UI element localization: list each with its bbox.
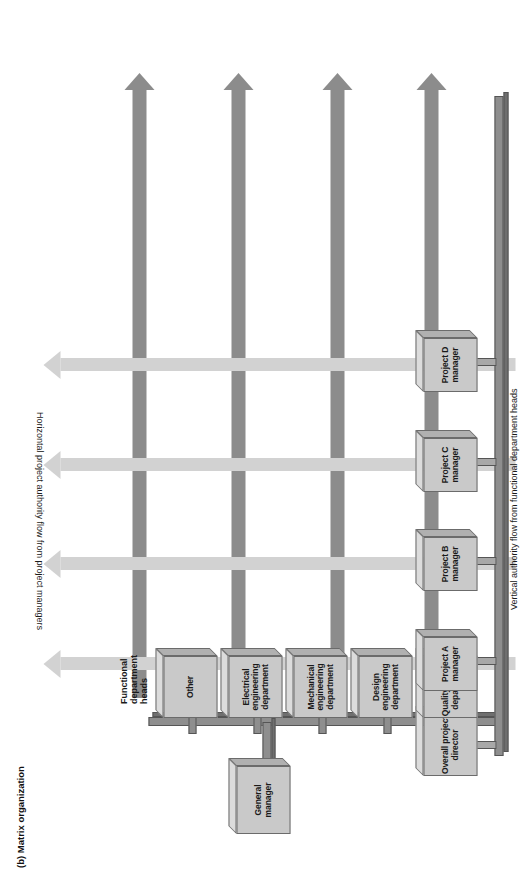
node-label: Design engineering department bbox=[371, 657, 400, 717]
box-front-face: General manager bbox=[236, 766, 290, 834]
node-label: General manager bbox=[253, 767, 272, 833]
node-project-d-manager[interactable]: Project D manager bbox=[415, 330, 477, 392]
box-side-face bbox=[350, 648, 412, 656]
matrix-organization-diagram: (b) Matrix organization bbox=[0, 0, 527, 876]
node-other-department[interactable]: Other bbox=[155, 648, 217, 718]
box-front-face: Project C manager bbox=[423, 438, 477, 492]
node-general-manager[interactable]: General manager bbox=[228, 758, 290, 834]
node-label: Other bbox=[185, 676, 195, 698]
box-front-face: Design engineering department bbox=[358, 656, 412, 718]
general-manager-connector-shadow bbox=[271, 718, 275, 760]
box-side-face bbox=[415, 529, 477, 537]
box-side-face bbox=[220, 648, 282, 656]
box-top-face bbox=[350, 648, 358, 718]
box-top-face bbox=[155, 648, 163, 718]
node-design-engineering-department[interactable]: Design engineering department bbox=[350, 648, 412, 718]
box-front-face: Project B manager bbox=[423, 537, 477, 591]
box-front-face: Project A manager bbox=[423, 637, 477, 691]
node-label: Overall project director bbox=[440, 715, 459, 775]
box-top-face bbox=[285, 648, 293, 718]
node-label: Project B manager bbox=[440, 538, 459, 590]
box-front-face: Other bbox=[163, 656, 217, 718]
node-label: Project D manager bbox=[440, 339, 459, 391]
horizontal-flow-arrow-3 bbox=[330, 90, 344, 698]
box-front-face: Overall project director bbox=[423, 714, 477, 776]
node-project-a-manager[interactable]: Project A manager bbox=[415, 629, 477, 691]
box-top-face bbox=[415, 330, 423, 392]
figure-title: (b) Matrix organization bbox=[14, 766, 25, 868]
functional-stub-1 bbox=[188, 716, 196, 734]
box-side-face bbox=[155, 648, 217, 656]
figure-canvas: (b) Matrix organization bbox=[0, 0, 527, 876]
box-top-face bbox=[220, 648, 228, 718]
box-side-face bbox=[415, 629, 477, 637]
box-side-face bbox=[285, 648, 347, 656]
node-mechanical-engineering-department[interactable]: Mechanical engineering department bbox=[285, 648, 347, 718]
horizontal-flow-label: Horizontal project authority flow from p… bbox=[34, 412, 44, 630]
node-label: Mechanical engineering department bbox=[306, 657, 335, 717]
vertical-flow-label: Vertical authority flow from functional … bbox=[508, 388, 518, 610]
functional-stub-3 bbox=[318, 716, 326, 734]
horizontal-flow-arrow-2 bbox=[231, 90, 245, 698]
node-label: Project C manager bbox=[440, 439, 459, 491]
box-top-face bbox=[415, 629, 423, 691]
functional-department-heads-label: Functional department heads bbox=[118, 655, 148, 704]
box-front-face: Project D manager bbox=[423, 338, 477, 392]
box-top-face bbox=[415, 430, 423, 492]
horizontal-flow-arrow-1 bbox=[132, 90, 146, 698]
box-front-face: Electrical engineering department bbox=[228, 656, 282, 718]
horizontal-flow-arrow-4 bbox=[424, 90, 438, 698]
box-front-face: Mechanical engineering department bbox=[293, 656, 347, 718]
box-side-face bbox=[415, 430, 477, 438]
box-side-face bbox=[415, 330, 477, 338]
functional-stub-4 bbox=[383, 716, 391, 734]
box-top-face bbox=[415, 529, 423, 591]
functional-stub-2 bbox=[253, 716, 261, 734]
box-top-face bbox=[228, 758, 236, 834]
box-side-face bbox=[228, 758, 290, 766]
project-rail-shadow bbox=[503, 92, 508, 752]
node-label: Project A manager bbox=[440, 638, 459, 690]
node-project-b-manager[interactable]: Project B manager bbox=[415, 529, 477, 591]
node-electrical-engineering-department[interactable]: Electrical engineering department bbox=[220, 648, 282, 718]
node-project-c-manager[interactable]: Project C manager bbox=[415, 430, 477, 492]
node-label: Electrical engineering department bbox=[241, 657, 270, 717]
